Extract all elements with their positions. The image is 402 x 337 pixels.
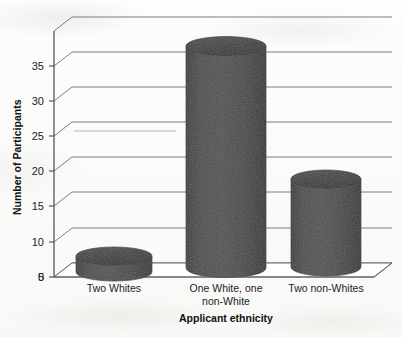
x-label-two-whites: Two Whites (87, 282, 141, 294)
y-tick-labels-group: 35 30 25 20 15 10 5 (32, 60, 44, 283)
bar-two-whites[interactable] (76, 247, 152, 281)
depth-connector-10 (54, 228, 72, 242)
y-tick-label-35: 35 (32, 60, 44, 72)
y-tick-label-10: 10 (32, 236, 44, 248)
bars-group (76, 37, 361, 282)
bar-body-two-non-whites (291, 179, 361, 276)
bar-top-ellipse-two-whites (76, 247, 152, 265)
x-category-labels-group: Two Whites One White, one non-White Two … (87, 282, 364, 307)
depth-connector-top (54, 17, 72, 31)
y-tick-label-30: 30 (32, 95, 44, 107)
chart-svg: 35 30 25 20 15 10 5 Number of Participan… (0, 0, 402, 337)
bar-body-one-white-one-non-white (186, 46, 266, 278)
y-axis-title: Number of Participants (11, 99, 23, 215)
depth-connector-35 (54, 52, 72, 66)
depth-connector-20 (54, 157, 72, 171)
bar-top-ellipse-one-white-one-non-white (186, 37, 266, 56)
bar-top-ellipse-two-non-whites (291, 170, 361, 188)
depth-connector-15 (54, 192, 72, 206)
x-label-two-non-whites: Two non-Whites (288, 282, 363, 294)
y-tick-label-25: 25 (32, 130, 44, 142)
depth-connectors-group (54, 17, 72, 277)
y-tick-label-20: 20 (32, 165, 44, 177)
x-label-one-white-one-non-white-line2: non-White (202, 295, 250, 307)
depth-connector-30 (54, 87, 72, 101)
y-axis-ticks-group (49, 66, 54, 277)
x-label-one-white-one-non-white-line1: One White, one (190, 282, 263, 294)
depth-connector-25 (54, 122, 72, 136)
bar-one-white-one-non-white[interactable] (186, 37, 266, 278)
bar-chart-figure: 35 30 25 20 15 10 5 Number of Participan… (0, 0, 402, 337)
bar-two-non-whites[interactable] (291, 170, 361, 276)
y-tick-label-15: 15 (32, 200, 44, 212)
x-axis-title: Applicant ethnicity (179, 312, 273, 324)
y-tick-label-0: 0 (38, 271, 44, 283)
